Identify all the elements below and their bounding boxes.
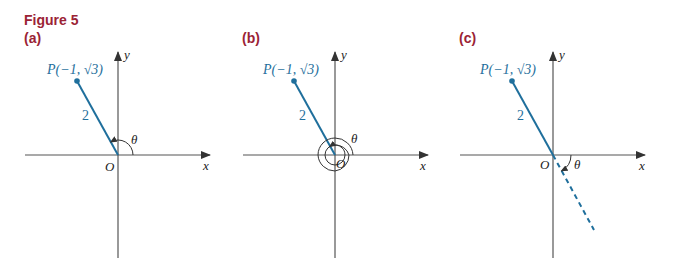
x-axis-label: x (419, 158, 426, 173)
point-p (291, 78, 297, 84)
x-axis-label: x (638, 158, 645, 173)
segment-length-label: 2 (299, 108, 306, 123)
angle-label: θ (351, 131, 358, 146)
point-p (509, 78, 515, 84)
origin-label: O (105, 159, 115, 174)
origin-label: O (540, 157, 550, 172)
point-label: P(−1, √3) (262, 62, 319, 78)
angle-label: θ (574, 157, 581, 172)
panel-a: P(−1, √3) 2 O x y θ (25, 47, 210, 258)
figure-canvas: P(−1, √3) 2 O x y θ P(−1, √3) 2 O x y θ … (0, 0, 673, 271)
angle-label: θ (131, 132, 138, 147)
x-axis-label: x (202, 158, 209, 173)
origin-label: O (336, 156, 346, 171)
point-p (74, 78, 80, 84)
panel-c: P(−1, √3) 2 O x y θ (460, 47, 645, 258)
angle-arc (562, 155, 572, 171)
point-label: P(−1, √3) (479, 62, 536, 78)
panel-b: P(−1, √3) 2 O x y θ (243, 47, 428, 258)
segment-length-label: 2 (82, 108, 89, 123)
point-label: P(−1, √3) (46, 62, 103, 78)
segment-length-label: 2 (517, 108, 524, 123)
y-axis-label: y (122, 47, 130, 62)
y-axis-label: y (557, 47, 565, 62)
y-axis-label: y (339, 47, 347, 62)
